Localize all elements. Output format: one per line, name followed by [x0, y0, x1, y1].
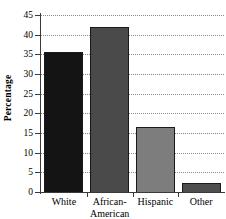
bar-other: [182, 183, 221, 192]
y-axis-tick-mark: [35, 15, 41, 16]
x-axis-tick-label-line: Hispanic: [133, 196, 179, 208]
bar-white: [44, 52, 83, 192]
y-axis-tick-mark: [35, 153, 41, 154]
x-axis-tick-mark: [133, 192, 134, 197]
y-axis-tick-mark: [35, 35, 41, 36]
y-axis-tick-mark: [35, 113, 41, 114]
y-axis-tick-label: 15: [5, 128, 33, 138]
y-axis-tick-label: 5: [5, 167, 33, 177]
bar-hispanic: [136, 127, 175, 192]
y-axis-tick-labels: 051015202530354045: [0, 0, 33, 218]
x-axis-tick-mark: [87, 192, 88, 197]
y-axis-tick-mark: [35, 133, 41, 134]
bar-chart-figure: Percentage 051015202530354045 WhiteAfric…: [0, 0, 226, 218]
x-axis-tick-label: White: [41, 196, 87, 208]
y-axis-tick-label: 20: [5, 108, 33, 118]
x-axis-tick-label-line: African-: [87, 196, 133, 208]
y-axis-tick-mark: [35, 192, 41, 193]
y-axis-tick-label: 25: [5, 89, 33, 99]
y-axis-tick-mark: [35, 94, 41, 95]
y-axis-tick-mark: [35, 74, 41, 75]
x-axis-tick-label: Hispanic: [133, 196, 179, 208]
y-axis-tick-label: 0: [5, 187, 33, 197]
x-axis-tick-labels: WhiteAfrican-AmericanHispanicOther: [41, 196, 225, 218]
x-axis-tick-label: Other: [178, 196, 224, 208]
bar-african-american: [90, 27, 129, 192]
x-axis-tick-label-line: American: [87, 208, 133, 219]
y-axis-tick-mark: [35, 54, 41, 55]
y-axis-tick-label: 45: [5, 10, 33, 20]
y-axis-tick-label: 35: [5, 49, 33, 59]
y-axis-tick-label: 10: [5, 148, 33, 158]
x-axis-tick-label: African-American: [87, 196, 133, 218]
y-axis-tick-label: 40: [5, 30, 33, 40]
y-axis-tick-label: 30: [5, 69, 33, 79]
x-axis-tick-label-line: Other: [178, 196, 224, 208]
x-axis-tick-label-line: White: [41, 196, 87, 208]
bars-layer: [41, 15, 225, 192]
x-axis-tick-mark: [178, 192, 179, 197]
y-axis-tick-mark: [35, 172, 41, 173]
